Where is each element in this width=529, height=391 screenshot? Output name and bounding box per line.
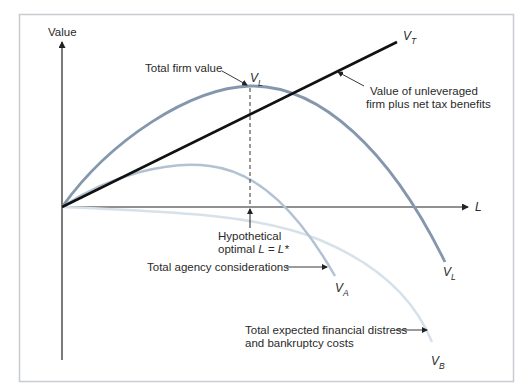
svg-text:L: L <box>451 272 456 282</box>
agency-label: Total agency considerations <box>147 261 289 273</box>
svg-text:L: L <box>258 78 263 88</box>
distress-label-line2: and bankruptcy costs <box>245 337 354 349</box>
svg-text:T: T <box>411 36 417 46</box>
svg-text:A: A <box>342 288 349 298</box>
optimal-prefix: optimal <box>218 243 258 255</box>
optimal-label-line2: optimal L = L* <box>218 243 289 255</box>
vt-description-line1: Value of unleveraged <box>370 85 478 97</box>
capital-structure-diagram: Value L V T V L Total firm value Value o… <box>0 0 529 391</box>
svg-text:B: B <box>439 361 445 371</box>
optimal-label-line1: Hypothetical <box>218 230 281 242</box>
x-axis-label: L <box>475 200 482 214</box>
optimal-eq: = <box>265 243 278 255</box>
optimal-Lstar: L* <box>278 243 289 255</box>
distress-label-line1: Total expected financial distress <box>245 324 408 336</box>
y-axis-label: Value <box>48 26 77 38</box>
vt-description-line2: firm plus net tax benefits <box>366 98 491 110</box>
total-firm-value-label: Total firm value <box>145 62 222 74</box>
